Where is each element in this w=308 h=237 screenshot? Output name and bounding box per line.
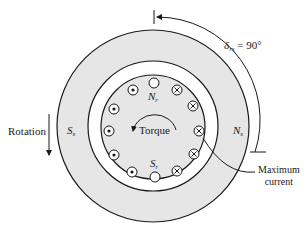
conductor-cross-icon: [172, 85, 182, 95]
rotor-north-label: Nr: [148, 90, 158, 104]
stator-north-label: Ns: [233, 124, 243, 138]
conductor-dot-icon: [104, 126, 114, 136]
rotation-label: Rotation: [8, 125, 46, 137]
conductor-cross-icon: [188, 101, 198, 111]
conductor-dot-icon: [109, 104, 119, 114]
max-current-label: Maximum current: [258, 164, 300, 188]
angle-label: δrs = 90°: [224, 39, 262, 53]
conductor-empty-icon: [149, 78, 159, 88]
conductor-cross-icon: [194, 126, 204, 136]
torque-label: Torque: [139, 124, 170, 136]
conductor-cross-icon: [189, 149, 199, 159]
conductor-dot-icon: [109, 150, 119, 160]
conductor-empty-icon: [150, 172, 160, 182]
conductor-cross-icon: [172, 166, 182, 176]
machine-diagram: [0, 0, 308, 237]
conductor-dot-icon: [127, 167, 137, 177]
conductor-dot-icon: [128, 85, 138, 95]
stator-south-label: Ss: [67, 124, 75, 138]
rotor-south-label: Sr: [150, 157, 158, 171]
